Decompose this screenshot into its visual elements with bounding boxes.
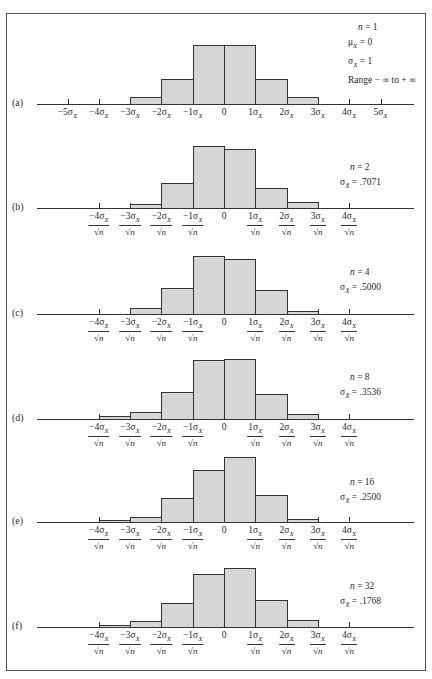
standard-error-label: σX̄ = .1768 [340, 594, 381, 613]
tick-label: −4σX [88, 108, 110, 121]
axis-tick [193, 414, 194, 419]
axis-tick [130, 99, 131, 104]
sample-size-label: n = 2 [340, 160, 381, 175]
tick-label: −2σX√n [151, 423, 173, 448]
tick-label: −2σX [151, 108, 173, 121]
axis-tick [318, 99, 319, 104]
tick-label: −1σX√n [182, 318, 204, 343]
x-axis-line [37, 314, 414, 315]
axis-tick [318, 309, 319, 314]
standard-error-label: σX̄ = .5000 [340, 280, 381, 299]
axis-tick [287, 414, 288, 419]
x-axis-line [37, 208, 414, 209]
tick-label: −4σX√n [88, 526, 110, 551]
tick-label: 2σX√n [279, 526, 295, 551]
panel-annotation: n = 32σX̄ = .1768 [340, 579, 381, 613]
tick-label: 5σX [372, 108, 388, 121]
range-label: Range − ∞ to + ∞ [348, 73, 416, 88]
panel-label: (d) [12, 412, 24, 423]
tick-label: 3σX√n [310, 423, 326, 448]
axis-tick [349, 203, 350, 208]
axis-tick [318, 203, 319, 208]
histogram-bar [193, 256, 225, 315]
tick-label: 4σX [341, 108, 357, 121]
tick-label: 3σX√n [310, 318, 326, 343]
axis-tick [99, 203, 100, 208]
panel-label: (a) [12, 97, 23, 108]
tick-label: 1σX√n [247, 631, 263, 656]
tick-label: −2σX√n [151, 212, 173, 237]
histogram-bar [193, 574, 225, 628]
histogram-bar [255, 290, 287, 315]
histogram-bar [224, 45, 256, 105]
tick-label: 0 [221, 631, 228, 642]
tick-label: −3σX√n [119, 526, 141, 551]
standard-error-label: σX̄ = .7071 [340, 175, 381, 194]
axis-tick [349, 99, 350, 104]
axis-tick [99, 414, 100, 419]
sample-size-label: n = 1 [348, 20, 416, 35]
axis-tick [193, 622, 194, 627]
axis-tick [287, 309, 288, 314]
tick-label: 4σX√n [341, 631, 357, 656]
histogram-bar [193, 146, 225, 209]
tick-label: −3σX√n [119, 631, 141, 656]
tick-label: 2σX [279, 108, 295, 121]
axis-tick [130, 622, 131, 627]
axis-tick [255, 203, 256, 208]
axis-tick [255, 309, 256, 314]
tick-label: 3σX√n [310, 526, 326, 551]
histogram-bar [161, 288, 193, 315]
x-axis-line [37, 419, 414, 420]
histogram-bar [193, 470, 225, 523]
tick-label: −4σX√n [88, 212, 110, 237]
tick-label: 0 [221, 108, 228, 119]
axis-tick [318, 622, 319, 627]
tick-label: 2σX√n [279, 318, 295, 343]
tick-label: −1σX√n [182, 526, 204, 551]
axis-tick [161, 309, 162, 314]
x-axis-line [37, 627, 414, 628]
sample-size-label: n = 16 [340, 475, 381, 490]
tick-label: −4σX√n [88, 423, 110, 448]
tick-label: −2σX√n [151, 631, 173, 656]
histogram-bar [193, 45, 225, 105]
panel-annotation: n = 16σX̄ = .2500 [340, 475, 381, 509]
axis-tick [161, 99, 162, 104]
sample-size-label: n = 8 [340, 370, 381, 385]
tick-label: 0 [221, 212, 228, 223]
tick-label: 2σX√n [279, 631, 295, 656]
standard-error-label: σX̄ = .2500 [340, 490, 381, 509]
tick-label: 4σX√n [341, 526, 357, 551]
axis-tick [99, 99, 100, 104]
histogram-bar [193, 360, 225, 420]
histogram-bar [224, 359, 256, 420]
axis-tick [161, 414, 162, 419]
x-axis-line [37, 104, 414, 105]
tick-label: −2σX√n [151, 526, 173, 551]
panel-annotation: n = 1μX = 0σX = 1Range − ∞ to + ∞ [348, 20, 416, 88]
axis-tick [349, 309, 350, 314]
axis-tick [68, 99, 69, 104]
tick-label: −1σX√n [182, 212, 204, 237]
histogram-bar [161, 498, 193, 523]
axis-tick [130, 414, 131, 419]
axis-tick [255, 622, 256, 627]
histogram-bar [224, 149, 256, 209]
std-dev-label: σX = 1 [348, 54, 416, 73]
tick-label: −3σX [119, 108, 141, 121]
axis-tick [99, 517, 100, 522]
panel-annotation: n = 2σX̄ = .7071 [340, 160, 381, 194]
axis-tick [193, 99, 194, 104]
tick-label: 1σX [247, 108, 263, 121]
panel-annotation: n = 8σX̄ = .3536 [340, 370, 381, 404]
axis-tick [255, 517, 256, 522]
panel-annotation: n = 4σX̄ = .5000 [340, 265, 381, 299]
axis-tick [193, 309, 194, 314]
axis-tick [318, 414, 319, 419]
tick-label: 0 [221, 318, 228, 329]
tick-label: 3σX [310, 108, 326, 121]
axis-tick [99, 622, 100, 627]
axis-tick [287, 99, 288, 104]
tick-label: −3σX√n [119, 212, 141, 237]
